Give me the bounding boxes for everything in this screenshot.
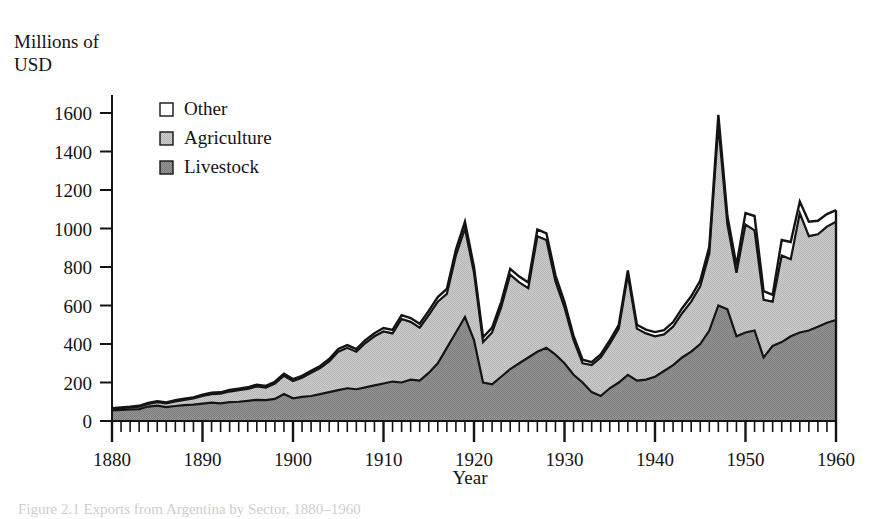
x-axis-title: Year <box>400 466 540 489</box>
y-axis-tick-label: 1200 <box>54 180 92 201</box>
legend-label-agriculture: Agriculture <box>184 127 272 148</box>
y-axis-tick-label: 600 <box>64 296 93 317</box>
x-axis-tick-label: 1940 <box>636 449 674 470</box>
y-axis-tick-label: 200 <box>64 373 93 394</box>
figure-container: Millions of USD 020040060080010001200140… <box>0 0 881 519</box>
legend-swatch-livestock <box>160 161 173 174</box>
y-axis-tick-label: 400 <box>64 334 93 355</box>
legend-label-livestock: Livestock <box>184 156 259 177</box>
legend-swatch-agriculture <box>160 132 173 145</box>
y-axis-tick-label: 1000 <box>54 219 92 240</box>
y-axis-tick-label: 1400 <box>54 142 92 163</box>
legend-label-other: Other <box>184 98 228 119</box>
y-axis-tick-label: 800 <box>64 257 93 278</box>
x-axis-tick-label: 1950 <box>727 449 765 470</box>
x-axis-tick-label: 1960 <box>817 449 855 470</box>
figure-caption: Figure 2.1 Exports from Argentina by Sec… <box>18 501 718 519</box>
x-axis-tick-label: 1890 <box>184 449 222 470</box>
stacked-area-chart: 02004006008001000120014001600 1880189019… <box>0 0 881 519</box>
x-axis-tick-label: 1930 <box>546 449 584 470</box>
chart-legend: OtherAgricultureLivestock <box>160 98 272 177</box>
x-axis-tick-label: 1880 <box>93 449 131 470</box>
legend-swatch-other <box>160 103 173 116</box>
y-axis: 02004006008001000120014001600 <box>54 95 112 432</box>
x-axis-tick-label: 1900 <box>274 449 312 470</box>
x-axis-tick-label: 1910 <box>365 449 403 470</box>
y-axis-tick-label: 0 <box>83 411 93 432</box>
y-axis-tick-label: 1600 <box>54 103 92 124</box>
